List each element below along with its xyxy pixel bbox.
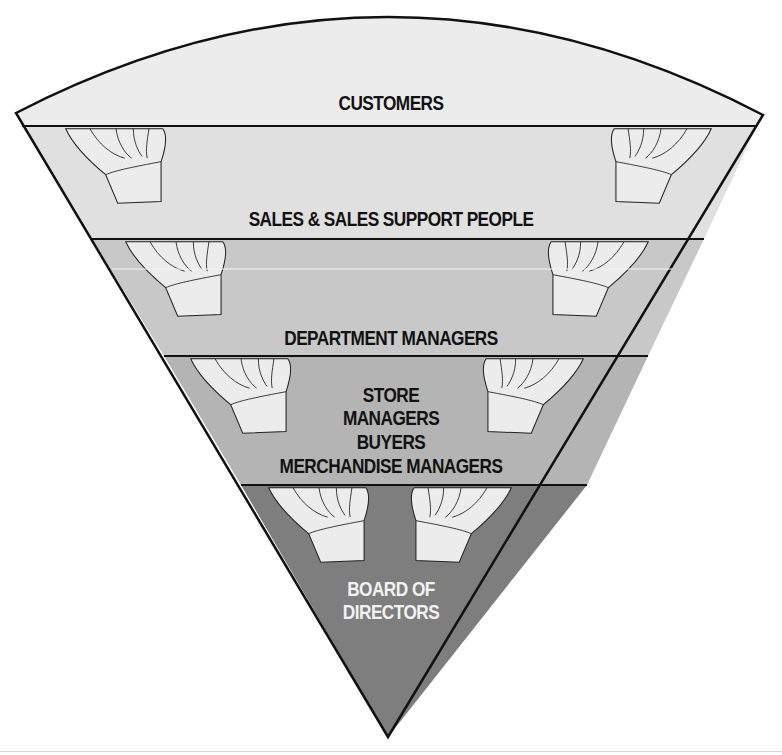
level-label-store-line2: MANAGERS: [55, 407, 728, 429]
level-label-store-line3: BUYERS: [55, 431, 728, 453]
level-label-store-line4: MERCHANDISE MANAGERS: [55, 455, 728, 477]
level-label-sales: SALES & SALES SUPPORT PEOPLE: [55, 208, 728, 230]
bottom-rule: [0, 751, 782, 752]
level-label-board-line2: DIRECTORS: [55, 601, 728, 623]
level-label-customers: CUSTOMERS: [55, 92, 728, 114]
level-label-board-line1: BOARD OF: [55, 578, 728, 600]
level-label-department: DEPARTMENT MANAGERS: [55, 327, 728, 349]
level-label-store-line1: STORE: [55, 384, 728, 406]
